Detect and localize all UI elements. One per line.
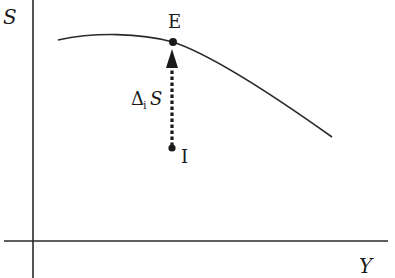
delta-subscript: i: [143, 99, 147, 112]
delta-variable: S: [150, 88, 162, 109]
arrow-head-icon: [166, 49, 178, 68]
equilibrium-point: [169, 38, 177, 46]
point-i-label: I: [181, 146, 188, 167]
delta-s-label: Δ i S: [131, 88, 162, 112]
point-e-label: E: [168, 11, 181, 32]
y-axis-label: S: [3, 5, 17, 29]
diagram-canvas: S Y E I Δ i S: [0, 0, 395, 278]
x-axis-label: Y: [359, 254, 374, 278]
initial-point: [168, 144, 175, 151]
entropy-curve: [58, 35, 332, 137]
